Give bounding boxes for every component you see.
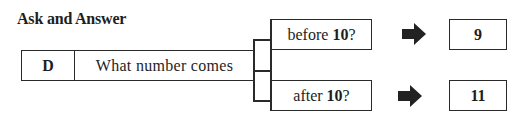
- right-arrow-icon: [398, 85, 422, 107]
- question-after-prefix: after: [293, 87, 326, 105]
- question-after-suffix: ?: [343, 87, 350, 105]
- row-label: D: [22, 51, 75, 80]
- question-before-prefix: before: [288, 26, 333, 44]
- question-before-number: 10: [332, 26, 348, 44]
- connector-inner-top: [253, 39, 271, 41]
- right-arrow-icon: [402, 23, 426, 45]
- connector-inner-bottom: [253, 100, 271, 102]
- question-before-box: before 10?: [271, 19, 372, 50]
- question-after-box: after 10?: [271, 80, 372, 111]
- question-before-suffix: ?: [348, 26, 355, 44]
- question-after-number: 10: [327, 87, 343, 105]
- section-title: Ask and Answer: [17, 10, 126, 28]
- answer-after-box: 11: [449, 80, 507, 111]
- answer-before-box: 9: [449, 19, 507, 50]
- connector-inner-mid: [253, 70, 271, 72]
- question-stem: What number comes: [75, 57, 254, 75]
- question-row: D What number comes: [21, 50, 255, 81]
